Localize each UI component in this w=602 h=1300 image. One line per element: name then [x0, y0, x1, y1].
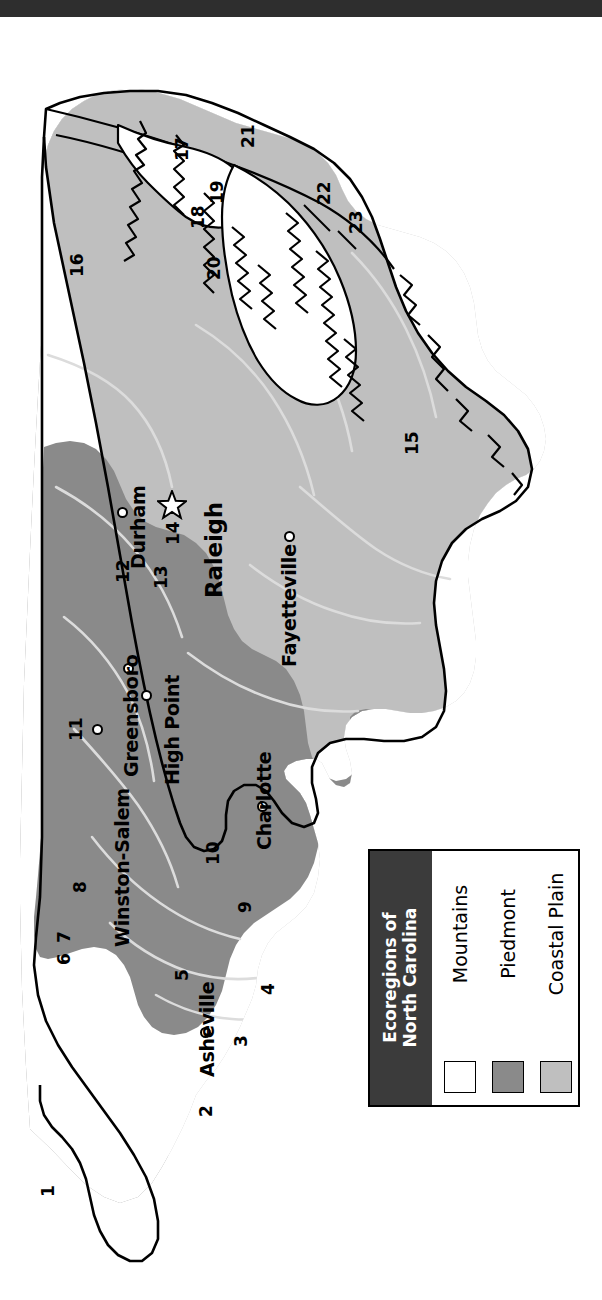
ecoregion-number-4: 4 [258, 983, 278, 995]
legend-title-band: Ecoregions of North Carolina [370, 851, 432, 1105]
ecoregion-number-21: 21 [238, 124, 258, 148]
legend-swatch-mountains [444, 1061, 476, 1093]
ecoregion-number-1: 1 [38, 1185, 58, 1197]
map-legend: Ecoregions of North Carolina Mountains P… [368, 849, 580, 1107]
city-marker-winston-salem [92, 724, 103, 735]
city-label-raleigh: Raleigh [201, 502, 227, 598]
city-label-greensboro: Greensboro [120, 654, 142, 777]
ecoregion-number-10: 10 [203, 841, 223, 865]
ecoregion-number-3: 3 [231, 1035, 251, 1047]
legend-title-line-1: Ecoregions of [380, 913, 400, 1043]
ecoregion-number-13: 13 [151, 565, 171, 589]
map-canvas: Asheville Charlotte Winston-Salem Greens… [0, 17, 602, 1300]
top-black-bar [0, 0, 602, 17]
city-label-fayetteville: Fayetteville [278, 544, 300, 667]
ecoregion-number-23: 23 [346, 210, 366, 234]
ecoregion-number-9: 9 [235, 901, 255, 913]
legend-label-piedmont: Piedmont [497, 889, 519, 979]
legend-label-coastal-plain: Coastal Plain [545, 873, 567, 996]
ecoregion-number-5: 5 [172, 969, 192, 981]
ecoregion-number-11: 11 [66, 717, 86, 741]
ecoregion-number-7: 7 [54, 931, 74, 943]
legend-body: Mountains Piedmont Coastal Plain [432, 851, 578, 1105]
city-label-asheville: Asheville [196, 982, 218, 1077]
city-label-high-point: High Point [161, 675, 183, 785]
legend-entry-coastal-plain: Coastal Plain [532, 865, 580, 1093]
legend-label-mountains: Mountains [449, 885, 471, 983]
legend-title: Ecoregions of North Carolina [381, 908, 420, 1048]
city-marker-high-point [141, 690, 152, 701]
capital-star-marker-raleigh [157, 490, 187, 520]
legend-swatch-piedmont [492, 1061, 524, 1093]
ecoregion-number-16: 16 [67, 253, 87, 277]
legend-swatch-coastal-plain [540, 1061, 572, 1093]
ecoregion-number-15: 15 [402, 431, 422, 455]
legend-entry-mountains: Mountains [436, 865, 484, 1093]
ecoregion-number-12: 12 [113, 559, 133, 583]
ecoregion-number-17: 17 [172, 137, 192, 161]
ecoregion-number-8: 8 [70, 881, 90, 893]
city-marker-fayetteville [284, 531, 295, 542]
ecoregion-number-6: 6 [54, 953, 74, 965]
city-label-winston-salem: Winston-Salem [111, 788, 133, 947]
north-carolina-ecoregion-map [0, 17, 602, 1300]
ecoregion-number-2: 2 [196, 1105, 216, 1117]
legend-entry-piedmont: Piedmont [484, 865, 532, 1093]
ecoregion-number-20: 20 [204, 256, 224, 280]
city-label-charlotte: Charlotte [253, 752, 275, 850]
ecoregion-number-18: 18 [188, 205, 208, 229]
ecoregion-number-19: 19 [207, 180, 227, 204]
legend-title-line-2: North Carolina [400, 908, 420, 1048]
ecoregion-number-22: 22 [314, 181, 334, 205]
city-label-durham: Durham [127, 485, 149, 569]
ecoregion-number-14: 14 [163, 521, 183, 545]
